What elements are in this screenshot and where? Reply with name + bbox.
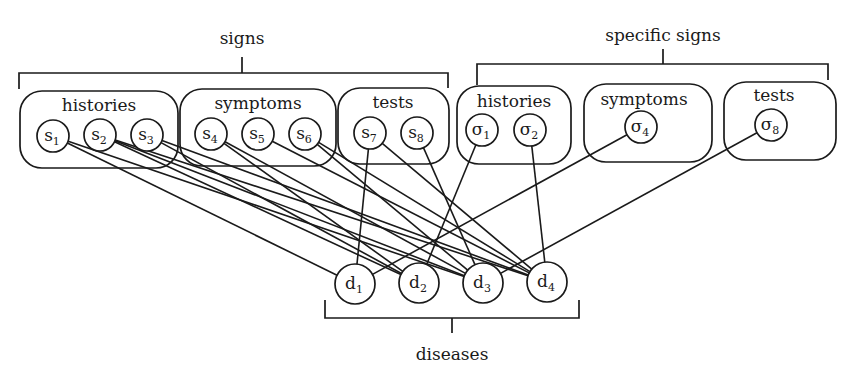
edges: [67, 133, 757, 277]
edge-s3-d2: [161, 143, 401, 274]
edge-s2-d3: [115, 141, 464, 276]
bracket-line: [477, 49, 828, 85]
node-s1: s1: [37, 120, 69, 152]
node-sigma8: σ8: [755, 109, 787, 141]
node-sigma2: σ2: [514, 114, 546, 146]
node-s7: s7: [354, 117, 386, 149]
bracket-label: diseases: [416, 344, 489, 364]
node-s2: s2: [84, 119, 116, 151]
brackets: signsspecific signsdiseases: [19, 25, 828, 364]
diagnosis-diagram: historiessymptomstestshistoriessymptomst…: [0, 0, 851, 377]
nodes: s1s2s3s4s5s6s7s8σ1σ2σ4σ8d1d2d3d4: [37, 109, 787, 304]
node-d4: d4: [527, 262, 567, 302]
bracket-line: [19, 57, 448, 89]
edge-sigma8-d3: [501, 133, 757, 274]
node-d1: d1: [335, 264, 375, 304]
bracket-label: signs: [220, 28, 265, 48]
node-d2: d2: [399, 263, 439, 303]
bracket-signs: signs: [19, 28, 448, 89]
group-label: tests: [372, 92, 413, 112]
group-label: tests: [753, 85, 794, 105]
node-s8: s8: [401, 117, 433, 149]
edge-s5-d4: [272, 141, 529, 273]
node-sigma1: σ1: [466, 114, 498, 146]
node-s4: s4: [195, 118, 227, 150]
group-label: symptoms: [600, 89, 687, 109]
group-label: symptoms: [214, 93, 301, 113]
edge-s1-d1: [67, 143, 337, 275]
node-d3: d3: [463, 263, 503, 303]
bracket-label: specific signs: [605, 25, 721, 45]
node-sigma4: σ4: [625, 111, 657, 143]
edge-s7-d4: [382, 143, 531, 269]
group-label: histories: [62, 95, 137, 115]
node-s6: s6: [289, 118, 321, 150]
bracket-diseases: diseases: [325, 300, 579, 364]
group-label: histories: [477, 91, 552, 111]
node-s3: s3: [131, 119, 163, 151]
bracket-specific-signs: specific signs: [477, 25, 828, 85]
bracket-line: [325, 300, 579, 333]
node-s5: s5: [242, 118, 274, 150]
